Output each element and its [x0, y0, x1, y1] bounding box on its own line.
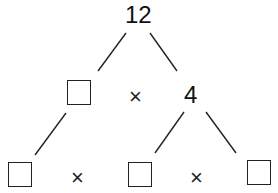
branch-box-to-bottom-left-box: [35, 113, 66, 155]
branch-12-to-4: [150, 33, 177, 71]
answer-box-bottom-left[interactable]: [8, 162, 32, 187]
branch-4-to-bottom-right-box: [206, 112, 236, 153]
root-number: 12: [125, 3, 152, 27]
multiply-sign-level2: ×: [129, 86, 142, 108]
branch-12-to-left-box: [98, 33, 126, 71]
multiply-sign-bottom-right: ×: [190, 167, 203, 189]
answer-box-bottom-middle[interactable]: [128, 162, 152, 187]
multiply-sign-bottom-left: ×: [71, 167, 84, 189]
answer-box-level2-left[interactable]: [67, 80, 91, 105]
level2-right-number: 4: [184, 83, 197, 107]
branch-4-to-bottom-middle-box: [155, 112, 184, 153]
answer-box-bottom-right[interactable]: [247, 160, 271, 185]
